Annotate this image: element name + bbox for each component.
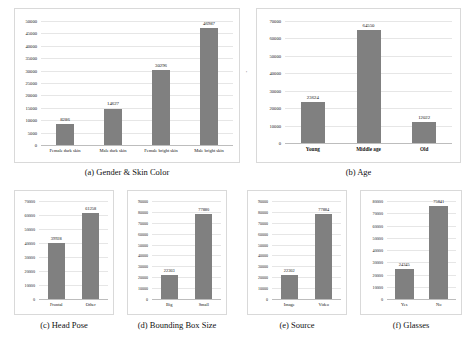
chart-panel-glasses: 0100002000030000400005000060000700008000…	[360, 190, 462, 315]
y-axis-tick-label: 10000	[248, 286, 268, 291]
chart-caption-e: (e) Source	[241, 320, 353, 330]
y-axis-tick-label: 0	[257, 141, 281, 146]
chart-caption-a: (a) Gender & Skin Color	[14, 167, 240, 177]
y-axis-tick-label: 70000	[128, 220, 148, 225]
bar-value-label: 22303	[147, 268, 191, 273]
y-axis-tick-label: 20000	[248, 275, 268, 280]
bar-a-2	[152, 70, 170, 145]
y-axis-tick-label: 0	[15, 143, 37, 148]
x-axis-category-label: Middle age	[341, 146, 397, 152]
x-axis-category-label: Male dark skin	[89, 148, 137, 154]
bar-a-1	[104, 109, 122, 145]
x-axis-category-label: Young	[285, 146, 341, 152]
y-axis-tick-label: 30000	[361, 260, 383, 265]
x-axis-line	[387, 299, 456, 300]
y-axis-tick-label: 30000	[15, 255, 35, 260]
y-axis-tick-label: 60000	[248, 231, 268, 236]
y-axis-tick-label: 20000	[15, 93, 37, 98]
y-axis-tick-label: 20000	[128, 275, 148, 280]
x-axis-category-label: Yes	[387, 302, 422, 308]
y-axis-tick-label: 90000	[128, 199, 148, 204]
bar-value-label: 39928	[34, 236, 78, 241]
y-axis-tick-label: 0	[248, 297, 268, 302]
chart-panel-source: 0100002000030000400005000060000700008000…	[247, 190, 347, 315]
y-axis-tick-label: 10000	[128, 286, 148, 291]
x-axis-line	[39, 299, 108, 300]
x-axis-category-label: Female bright skin	[137, 148, 185, 154]
x-axis-category-label: Other	[74, 302, 109, 308]
chart-caption-f: (f) Glasses	[354, 320, 468, 330]
bar-f-0	[395, 269, 414, 299]
bar-value-label: 14627	[91, 101, 135, 106]
y-axis-tick-label: 0	[361, 297, 383, 302]
x-axis-category-label: No	[422, 302, 457, 308]
chart-e: 0100002000030000400005000060000700008000…	[248, 191, 346, 314]
y-axis-tick-label: 50000	[248, 242, 268, 247]
y-axis-tick-label: 30000	[128, 264, 148, 269]
bar-b-1	[357, 30, 381, 143]
y-axis-tick-label: 50000	[15, 227, 35, 232]
bar-e-1	[315, 214, 332, 299]
chart-d: 0100002000030000400005000060000700008000…	[128, 191, 226, 314]
chart-caption-c: (c) Head Pose	[8, 320, 120, 330]
bar-b-2	[412, 122, 436, 143]
bar-value-label: 24345	[382, 262, 426, 267]
y-axis-tick-label: 45000	[15, 31, 37, 36]
plot-area-e: 0100002000030000400005000060000700008000…	[247, 190, 347, 315]
bar-value-label: 77880	[182, 207, 226, 212]
x-axis-line	[272, 299, 341, 300]
y-axis-tick-label: 40000	[128, 253, 148, 258]
y-axis-tick-label: 0	[15, 297, 35, 302]
y-axis-tick-label: 20000	[15, 269, 35, 274]
bar-d-1	[195, 214, 212, 299]
bar-c-1	[82, 213, 99, 299]
x-axis-category-label: Old	[396, 146, 452, 152]
plot-area-c: 0100002000030000400005000060000700003992…	[14, 190, 114, 315]
y-axis-tick-label: 80000	[128, 209, 148, 214]
chart-panel-gender-skin-color: 0500010000150002000025000300003500040000…	[14, 8, 240, 163]
y-axis-tick-label: 0	[128, 297, 148, 302]
bar-value-label: 8286	[43, 117, 87, 122]
bar-c-0	[48, 243, 65, 299]
x-axis-category-label: Frontal	[39, 302, 74, 308]
plot-area-a: 0500010000150002000025000300003500040000…	[14, 8, 240, 163]
y-axis-tick-label: 70000	[361, 211, 383, 216]
y-axis-tick-label: 30000	[15, 68, 37, 73]
y-axis-tick-label: 40000	[15, 43, 37, 48]
bar-value-label: 61258	[69, 206, 113, 211]
chart-b: 0100002000030000400005000060000700002362…	[257, 9, 460, 162]
bar-a-0	[56, 124, 74, 145]
y-axis-tick-label: 10000	[257, 123, 281, 128]
bar-value-label: 64550	[347, 23, 391, 28]
x-axis-category-label: Small	[187, 302, 222, 308]
y-axis-tick-label: 70000	[15, 199, 35, 204]
x-axis-line	[152, 299, 221, 300]
bar-f-1	[429, 206, 448, 299]
bar-value-label: 22302	[267, 268, 311, 273]
chart-caption-b: (b) Age	[256, 167, 461, 177]
y-axis-tick-label: 15000	[15, 105, 37, 110]
bar-value-label: 30296	[139, 63, 183, 68]
y-axis-tick-label: 10000	[361, 284, 383, 289]
chart-c: 0100002000030000400005000060000700003992…	[15, 191, 113, 314]
y-axis-tick-label: 20000	[257, 106, 281, 111]
y-axis-tick-label: 35000	[15, 56, 37, 61]
x-axis-category-label: Big	[152, 302, 187, 308]
gridline	[285, 21, 452, 22]
y-axis-tick-label: 90000	[248, 199, 268, 204]
y-axis-tick-label: 50000	[128, 242, 148, 247]
y-axis-tick-label: 10000	[15, 118, 37, 123]
y-axis-tick-label: 80000	[361, 199, 383, 204]
stray-mark: '	[246, 70, 247, 76]
y-axis-tick-label: 40000	[257, 71, 281, 76]
y-axis-tick-label: 40000	[15, 241, 35, 246]
y-axis-tick-label: 60000	[361, 223, 383, 228]
bar-value-label: 23624	[291, 95, 335, 100]
x-axis-line	[285, 143, 452, 144]
bar-d-0	[161, 275, 178, 299]
x-axis-line	[41, 145, 233, 146]
y-axis-tick-label: 25000	[15, 81, 37, 86]
y-axis-tick-label: 60000	[15, 213, 35, 218]
bar-value-label: 46987	[187, 21, 231, 26]
y-axis-tick-label: 80000	[248, 209, 268, 214]
